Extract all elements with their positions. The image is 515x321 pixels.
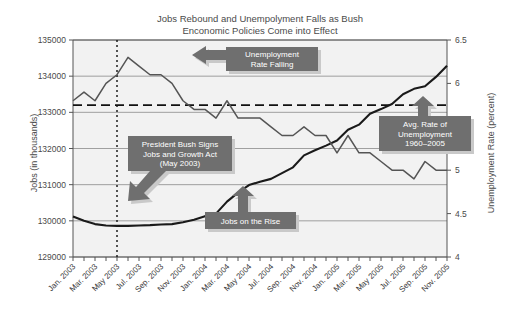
y-axis-right-tick-label: 4.5 <box>455 209 467 219</box>
y-axis-left-tick-label: 133000 <box>38 107 67 117</box>
y-axis-left-tick-label: 134000 <box>38 71 67 81</box>
y-axis-left-tick-label: 135000 <box>38 35 67 45</box>
y-axis-left-tick-label: 131000 <box>38 180 67 190</box>
y-axis-right-tick-label: 5 <box>455 165 460 175</box>
callout-text-line: Unemployment <box>398 130 453 139</box>
chart-figure: Jobs Rebound and Unempolyment Falls as B… <box>0 0 515 321</box>
y-axis-right-tick-label: 6 <box>455 78 460 88</box>
callout-text-line: Unemployment <box>245 50 300 59</box>
y-axis-left-tick-label: 130000 <box>38 216 67 226</box>
chart-plot: 1290001300001310001320001330001340001350… <box>0 0 515 321</box>
callout-text-line: Jobs and Growth Act <box>143 150 218 159</box>
y-axis-left-tick-label: 132000 <box>38 144 67 154</box>
y-axis-right-tick-label: 4 <box>455 252 460 262</box>
callout-text-line: Jobs on the Rise <box>221 217 281 226</box>
callout-text-line: President Bush Signs <box>142 140 219 149</box>
y-axis-right-tick-label: 6.5 <box>455 35 467 45</box>
callout-text-line: (May 2003) <box>160 159 201 168</box>
callout-text-line: 1960–2005 <box>405 139 446 148</box>
y-axis-left-tick-label: 129000 <box>38 252 67 262</box>
callout-text-line: Avg. Rate of <box>403 120 448 129</box>
callout-text-line: Rate Falling <box>251 60 294 69</box>
